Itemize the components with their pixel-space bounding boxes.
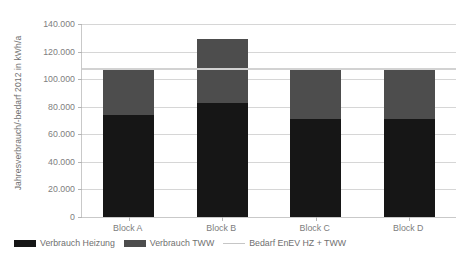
y-axis-tick-label: 40.000	[48, 157, 75, 167]
bar-segment-tww	[384, 70, 435, 120]
benchmark-reference-line	[82, 68, 456, 70]
y-axis-tick	[78, 189, 82, 190]
bar-segment-heizung	[290, 119, 341, 217]
y-axis-tick-label: 0	[70, 212, 75, 222]
y-axis-tick-label: 120.000	[43, 47, 75, 57]
y-axis-tick-label: 80.000	[48, 102, 75, 112]
bar-segment-tww	[290, 70, 341, 120]
y-axis-title: Jahresverbrauch/-bedarf 2012 in kWh/a	[13, 13, 23, 213]
y-axis-tick	[78, 162, 82, 163]
legend-swatch-icon	[14, 240, 36, 247]
legend-item-verbrauch-tww: Verbrauch TWW	[124, 238, 214, 248]
bar-stack	[197, 24, 248, 217]
x-axis-tick	[222, 217, 223, 221]
y-axis-tick-label: 100.000	[43, 74, 75, 84]
bar-segment-heizung	[197, 103, 248, 217]
y-axis-tick	[78, 107, 82, 108]
bar-stack	[103, 24, 154, 217]
legend-label: Verbrauch TWW	[150, 238, 214, 248]
legend-line-icon	[223, 240, 245, 247]
legend-item-verbrauch-heizung: Verbrauch Heizung	[14, 238, 115, 248]
bar-stack	[384, 24, 435, 217]
x-axis-category-label: Block D	[393, 223, 423, 233]
legend-swatch-icon	[124, 240, 146, 247]
bar-stack	[290, 24, 341, 217]
x-axis-category-label: Block C	[300, 223, 330, 233]
plot-area: 140.000120.000100.00080.00060.00040.0002…	[81, 24, 456, 218]
bar-segment-heizung	[103, 115, 154, 217]
legend-label: Verbrauch Heizung	[40, 238, 115, 248]
bar-segment-tww	[197, 39, 248, 102]
y-axis-tick	[78, 24, 82, 25]
legend-label: Bedarf EnEV HZ + TWW	[249, 238, 346, 248]
y-axis-tick-label: 140.000	[43, 19, 75, 29]
x-axis-tick	[316, 217, 317, 221]
legend-item-bedarf-enev: Bedarf EnEV HZ + TWW	[223, 238, 346, 248]
x-axis-category-label: Block B	[206, 223, 236, 233]
chart-legend: Verbrauch Heizung Verbrauch TWW Bedarf E…	[14, 238, 346, 248]
y-axis-tick	[78, 79, 82, 80]
x-axis-category-label: Block A	[113, 223, 142, 233]
bar-segment-tww	[103, 70, 154, 115]
y-axis-tick	[78, 217, 82, 218]
bar-segment-heizung	[384, 119, 435, 217]
y-axis-tick-label: 20.000	[48, 184, 75, 194]
x-axis-tick	[409, 217, 410, 221]
y-axis-tick-label: 60.000	[48, 129, 75, 139]
x-axis-tick	[129, 217, 130, 221]
y-axis-tick	[78, 134, 82, 135]
chart-container: Jahresverbrauch/-bedarf 2012 in kWh/a 14…	[0, 0, 467, 257]
y-axis-tick	[78, 52, 82, 53]
